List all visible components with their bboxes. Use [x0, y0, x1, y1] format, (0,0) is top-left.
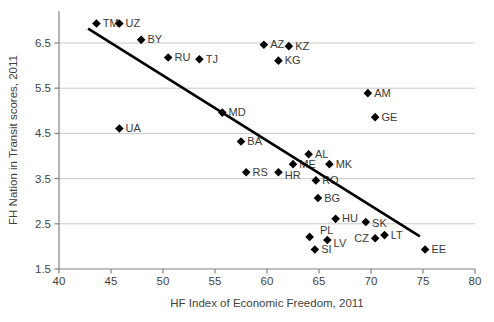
data-point-label-RU: RU [175, 51, 191, 63]
x-tick-label: 60 [261, 275, 274, 287]
data-point-LT [380, 231, 389, 240]
data-point-label-GE: GE [381, 111, 397, 123]
data-point-label-SK: SK [372, 217, 387, 229]
data-point-label-HR: HR [285, 169, 301, 181]
data-point-RO [312, 176, 321, 185]
data-point-label-RS: RS [253, 166, 268, 178]
data-point-ME [289, 160, 298, 169]
data-point-HU [331, 215, 340, 224]
scatter-chart: 4045505560657075801.52.53.54.55.56.5TMUZ… [0, 0, 494, 322]
y-tick-label: 5.5 [35, 82, 51, 94]
data-point-label-BG: BG [324, 192, 340, 204]
data-point-RU [164, 53, 173, 62]
data-point-UA [115, 124, 124, 133]
data-point-label-UA: UA [126, 122, 142, 134]
data-point-label-KZ: KZ [295, 40, 309, 52]
x-tick-label: 50 [157, 275, 170, 287]
data-point-EE [421, 245, 430, 254]
data-point-RS [242, 168, 251, 177]
data-point-label-LT: LT [391, 229, 403, 241]
x-tick-label: 70 [365, 275, 378, 287]
data-point-KG [274, 56, 283, 65]
data-point-GE [371, 113, 380, 122]
data-point-label-AM: AM [374, 87, 391, 99]
plot-canvas: 4045505560657075801.52.53.54.55.56.5TMUZ… [0, 0, 494, 322]
data-point-label-EE: EE [431, 243, 446, 255]
y-tick-label: 2.5 [35, 218, 51, 230]
data-point-SK [362, 218, 371, 227]
data-point-label-AL: AL [315, 148, 328, 160]
data-point-TM [92, 19, 101, 28]
data-point-label-BY: BY [147, 33, 162, 45]
data-point-HR [274, 168, 283, 177]
data-point-BA [237, 137, 246, 146]
data-point-label-MD: MD [229, 106, 246, 118]
data-point-label-UZ: UZ [126, 17, 141, 29]
y-tick-label: 6.5 [35, 37, 51, 49]
x-tick-label: 65 [313, 275, 326, 287]
data-point-label-HU: HU [342, 212, 358, 224]
data-point-MK [325, 160, 334, 169]
data-point-CZ [371, 234, 380, 243]
data-point-label-LV: LV [334, 237, 347, 249]
data-point-AZ [260, 41, 269, 50]
y-tick-label: 4.5 [35, 127, 51, 139]
x-tick-label: 55 [209, 275, 222, 287]
x-tick-label: 40 [53, 275, 66, 287]
data-point-label-KG: KG [285, 54, 301, 66]
x-tick-label: 45 [105, 275, 118, 287]
y-tick-label: 3.5 [35, 173, 51, 185]
data-point-PL [305, 233, 314, 242]
data-point-label-SI: SI [321, 243, 331, 255]
data-point-label-MK: MK [336, 158, 353, 170]
x-axis-title: HF Index of Economic Freedom, 2011 [59, 297, 475, 309]
data-point-BG [314, 194, 323, 203]
x-tick-label: 75 [417, 275, 430, 287]
data-point-SI [311, 245, 320, 254]
data-point-label-AZ: AZ [270, 38, 284, 50]
data-point-TJ [195, 55, 204, 64]
data-point-label-CZ: CZ [354, 232, 369, 244]
x-tick-label: 80 [469, 275, 482, 287]
y-tick-label: 1.5 [35, 263, 51, 275]
y-axis-title: FH Nation in Transit scores, 2011 [7, 55, 19, 225]
data-point-AM [364, 89, 373, 98]
data-point-label-TJ: TJ [206, 53, 218, 65]
data-point-label-PL: PL [320, 224, 333, 236]
